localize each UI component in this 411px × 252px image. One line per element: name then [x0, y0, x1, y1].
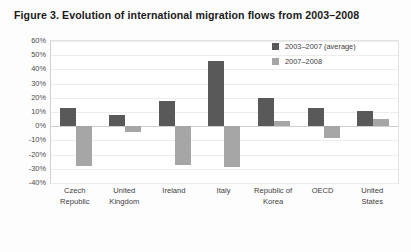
figure-container: Figure 3. Evolution of international mig… — [0, 0, 411, 252]
x-tick-label-line: Korea — [248, 197, 298, 208]
bar — [125, 126, 141, 132]
bar — [258, 98, 274, 126]
y-tick-label: -40% — [10, 178, 46, 187]
x-tick-label: UnitedStates — [347, 186, 397, 207]
y-tick-label: -30% — [10, 163, 46, 172]
x-tick-label: Italy — [199, 186, 249, 197]
x-tick-label: Republic ofKorea — [248, 186, 298, 207]
x-tick-label-line: Republic of — [248, 186, 298, 197]
y-tick-label: 0% — [10, 121, 46, 130]
bar — [324, 126, 340, 137]
x-tick-label-line: Italy — [199, 186, 249, 197]
y-tick-label: 50% — [10, 50, 46, 59]
x-tick-label-line: Czech — [50, 186, 100, 197]
x-tick-label-line: States — [347, 197, 397, 208]
x-tick-label-line: Ireland — [149, 186, 199, 197]
figure-title: Figure 3. Evolution of international mig… — [14, 9, 404, 21]
x-tick-label: Ireland — [149, 186, 199, 197]
bar — [208, 61, 224, 126]
bar — [357, 111, 373, 127]
bar-group — [101, 41, 151, 183]
x-tick-label-line: Republic — [50, 197, 100, 208]
bar-group — [348, 41, 398, 183]
y-tick-label: 60% — [10, 36, 46, 45]
x-tick-label: OECD — [298, 186, 348, 197]
bar-group — [150, 41, 200, 183]
x-axis-tick-labels: CzechRepublicUnitedKingdomIrelandItalyRe… — [50, 184, 399, 212]
x-tick-label-line: Kingdom — [100, 197, 150, 208]
bar — [60, 108, 76, 126]
legend-swatch-icon — [272, 58, 279, 65]
bar — [109, 115, 125, 126]
bar — [224, 126, 240, 167]
legend-item: 2007–2008 — [272, 57, 356, 66]
x-tick-label: UnitedKingdom — [100, 186, 150, 207]
x-tick-label: CzechRepublic — [50, 186, 100, 207]
y-tick-label: 40% — [10, 64, 46, 73]
bar — [308, 108, 324, 126]
legend-label: 2003–2007 (average) — [285, 42, 356, 51]
x-tick-label-line: United — [347, 186, 397, 197]
legend-swatch-icon — [272, 43, 279, 50]
y-tick-label: -20% — [10, 149, 46, 158]
y-tick-label: 10% — [10, 107, 46, 116]
chart-legend: 2003–2007 (average) 2007–2008 — [272, 42, 356, 72]
bar — [175, 126, 191, 164]
bar — [373, 119, 389, 126]
bar — [159, 101, 175, 127]
bar-group — [51, 41, 101, 183]
x-tick-label-line: United — [100, 186, 150, 197]
y-tick-label: 20% — [10, 92, 46, 101]
x-tick-label-line: OECD — [298, 186, 348, 197]
bar — [76, 126, 92, 166]
y-tick-label: -10% — [10, 135, 46, 144]
y-tick-label: 30% — [10, 78, 46, 87]
legend-item: 2003–2007 (average) — [272, 42, 356, 51]
bar — [274, 121, 290, 127]
bar-group — [200, 41, 250, 183]
legend-label: 2007–2008 — [285, 57, 322, 66]
